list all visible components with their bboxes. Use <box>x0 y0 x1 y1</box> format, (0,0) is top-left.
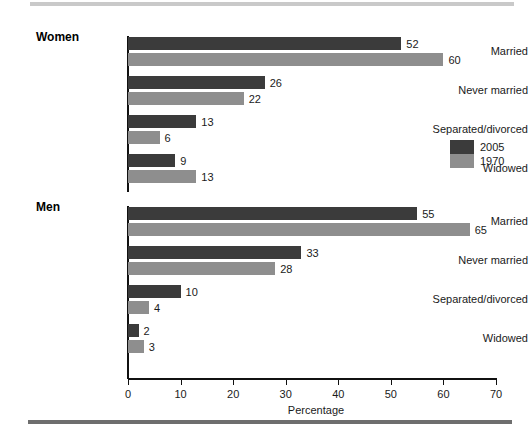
x-axis-line <box>128 378 496 380</box>
x-tick-30 <box>286 378 287 385</box>
legend: 2005 1970 <box>450 140 528 168</box>
x-tick-20 <box>233 378 234 385</box>
bar-value-women-0-y1970: 60 <box>448 54 460 66</box>
x-tick-label-30: 30 <box>280 388 292 400</box>
panel-title-men: Men <box>36 200 60 214</box>
bar-value-men-0-y2005: 55 <box>422 208 434 220</box>
x-tick-70 <box>496 378 497 385</box>
bar-value-men-3-y1970: 3 <box>149 341 155 353</box>
legend-swatch-2005 <box>450 140 474 154</box>
category-label-women-1: Never married <box>405 84 528 96</box>
bar-men-2-y2005[interactable] <box>128 285 181 298</box>
bar-women-2-y1970[interactable] <box>128 131 160 144</box>
bar-value-women-3-y2005: 9 <box>180 155 186 167</box>
bar-women-1-y2005[interactable] <box>128 76 265 89</box>
category-label-men-3: Widowed <box>405 332 528 344</box>
x-tick-10 <box>181 378 182 385</box>
x-axis-title-text: Percentage <box>288 404 344 416</box>
legend-swatch-1970 <box>450 154 474 168</box>
legend-label-2005: 2005 <box>480 140 504 154</box>
x-tick-label-20: 20 <box>227 388 239 400</box>
bar-women-3-y1970[interactable] <box>128 170 196 183</box>
bar-value-men-3-y2005: 2 <box>144 325 150 337</box>
bar-value-men-2-y1970: 4 <box>154 302 160 314</box>
bar-value-women-1-y1970: 22 <box>249 93 261 105</box>
x-tick-label-10: 10 <box>174 388 186 400</box>
legend-item-2005[interactable]: 2005 <box>450 140 528 154</box>
bar-women-0-y2005[interactable] <box>128 37 401 50</box>
legend-label-1970: 1970 <box>480 154 504 168</box>
bar-men-0-y1970[interactable] <box>128 223 470 236</box>
bar-value-women-3-y1970: 13 <box>201 171 213 183</box>
x-tick-label-0: 0 <box>125 388 131 400</box>
x-tick-0 <box>128 378 129 385</box>
category-label-men-1: Never married <box>405 254 528 266</box>
bar-men-3-y1970[interactable] <box>128 340 144 353</box>
bar-value-men-2-y2005: 10 <box>186 286 198 298</box>
grouped-bar-chart: Women Men Married5260Never married2622Se… <box>0 22 528 402</box>
bar-women-3-y2005[interactable] <box>128 154 175 167</box>
bottom-divider-rule <box>28 420 512 424</box>
bar-women-0-y1970[interactable] <box>128 53 443 66</box>
bar-value-men-1-y2005: 33 <box>306 247 318 259</box>
x-tick-label-60: 60 <box>437 388 449 400</box>
panel-title-women: Women <box>36 30 79 44</box>
bar-men-3-y2005[interactable] <box>128 324 139 337</box>
x-tick-label-70: 70 <box>490 388 502 400</box>
bar-women-1-y1970[interactable] <box>128 92 244 105</box>
chart-page: Women Men Married5260Never married2622Se… <box>0 0 528 438</box>
bar-men-0-y2005[interactable] <box>128 207 417 220</box>
bar-value-women-0-y2005: 52 <box>406 38 418 50</box>
category-label-women-2: Separated/divorced <box>405 123 528 135</box>
x-axis-title: Percentage <box>0 404 528 416</box>
x-tick-40 <box>338 378 339 385</box>
bar-value-men-1-y1970: 28 <box>280 263 292 275</box>
bar-value-women-2-y2005: 13 <box>201 116 213 128</box>
bar-value-women-1-y2005: 26 <box>270 77 282 89</box>
x-tick-60 <box>443 378 444 385</box>
x-tick-label-40: 40 <box>332 388 344 400</box>
legend-item-1970[interactable]: 1970 <box>450 154 528 168</box>
bar-men-1-y1970[interactable] <box>128 262 275 275</box>
category-label-men-2: Separated/divorced <box>405 293 528 305</box>
bar-women-2-y2005[interactable] <box>128 115 196 128</box>
bar-value-women-2-y1970: 6 <box>165 132 171 144</box>
bar-men-2-y1970[interactable] <box>128 301 149 314</box>
top-divider-rule <box>30 2 514 6</box>
x-tick-label-50: 50 <box>385 388 397 400</box>
x-tick-50 <box>391 378 392 385</box>
bar-value-men-0-y1970: 65 <box>475 224 487 236</box>
bar-men-1-y2005[interactable] <box>128 246 301 259</box>
